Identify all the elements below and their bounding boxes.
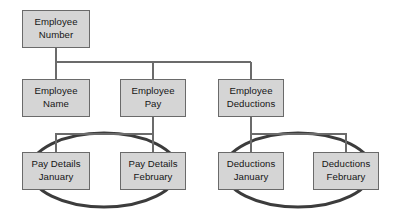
node-label-line1: Deductions <box>227 158 276 171</box>
tree-connectors <box>56 48 346 152</box>
node-employee-name[interactable]: Employee Name <box>22 79 90 117</box>
diagram-canvas: Employee Number Employee Name Employee P… <box>0 0 397 215</box>
node-label-line2: Name <box>43 98 69 111</box>
node-label-line2: February <box>134 171 173 184</box>
connector-employee-deductions-to-children <box>251 117 346 152</box>
node-deductions-january[interactable]: Deductions January <box>218 152 284 190</box>
node-label-line1: Employee <box>34 85 77 98</box>
node-pay-details-february[interactable]: Pay Details February <box>120 152 186 190</box>
node-label-line2: January <box>234 171 268 184</box>
node-label-line2: Pay <box>145 98 162 111</box>
node-employee-deductions[interactable]: Employee Deductions <box>218 79 284 117</box>
node-label-line2: January <box>39 171 73 184</box>
node-label-line1: Employee <box>229 85 272 98</box>
node-label-line2: Number <box>39 29 73 42</box>
node-employee-pay[interactable]: Employee Pay <box>120 79 186 117</box>
node-label-line1: Deductions <box>322 158 371 171</box>
node-pay-details-january[interactable]: Pay Details January <box>22 152 90 190</box>
node-label-line1: Employee <box>131 85 174 98</box>
node-deductions-february[interactable]: Deductions February <box>313 152 379 190</box>
connector-employee-pay-to-children <box>56 117 153 152</box>
node-label-line1: Pay Details <box>31 158 80 171</box>
node-label-line2: February <box>327 171 366 184</box>
node-label-line1: Pay Details <box>128 158 177 171</box>
node-employee-number[interactable]: Employee Number <box>22 10 90 48</box>
node-label-line2: Deductions <box>227 98 276 111</box>
node-label-line1: Employee <box>34 16 77 29</box>
